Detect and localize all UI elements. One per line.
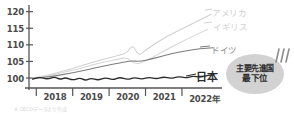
series-line-germany: [33, 48, 213, 79]
y-tick-label: 110: [0, 40, 24, 50]
y-tick-label: 105: [0, 57, 24, 67]
series-leader-line: [186, 74, 196, 76]
emphasis-marks-icon: [272, 48, 290, 64]
x-tick-label: 2019: [80, 92, 103, 102]
series-leader-line: [205, 9, 212, 10]
series-label-america: アメリカ: [212, 6, 247, 18]
x-tick-label: 2018: [43, 92, 66, 102]
x-tick-label: 2022年: [189, 92, 221, 104]
series-line-uk: [33, 30, 208, 78]
series-line-america: [33, 14, 211, 78]
series-leader-line: [200, 46, 210, 47]
y-tick-label: 120: [0, 7, 24, 17]
series-label-germany: ドイツ: [211, 43, 237, 55]
chart-container: 120115110105100 20182019202020212022年 アメ…: [0, 0, 294, 116]
series-leader-line: [204, 22, 212, 23]
series-label-japan: 日本: [196, 68, 218, 84]
y-tick-label: 100: [0, 74, 24, 84]
callout-text-line2: 最下位: [242, 74, 268, 83]
x-tick-label: 2021: [153, 92, 176, 102]
series-label-uk: イギリス: [213, 20, 248, 32]
chart-footnote: ※ OECDデータより作成: [14, 105, 67, 112]
y-tick-label: 115: [0, 24, 24, 34]
data-series-lines: [33, 9, 213, 80]
x-tick-label: 2020: [116, 92, 139, 102]
